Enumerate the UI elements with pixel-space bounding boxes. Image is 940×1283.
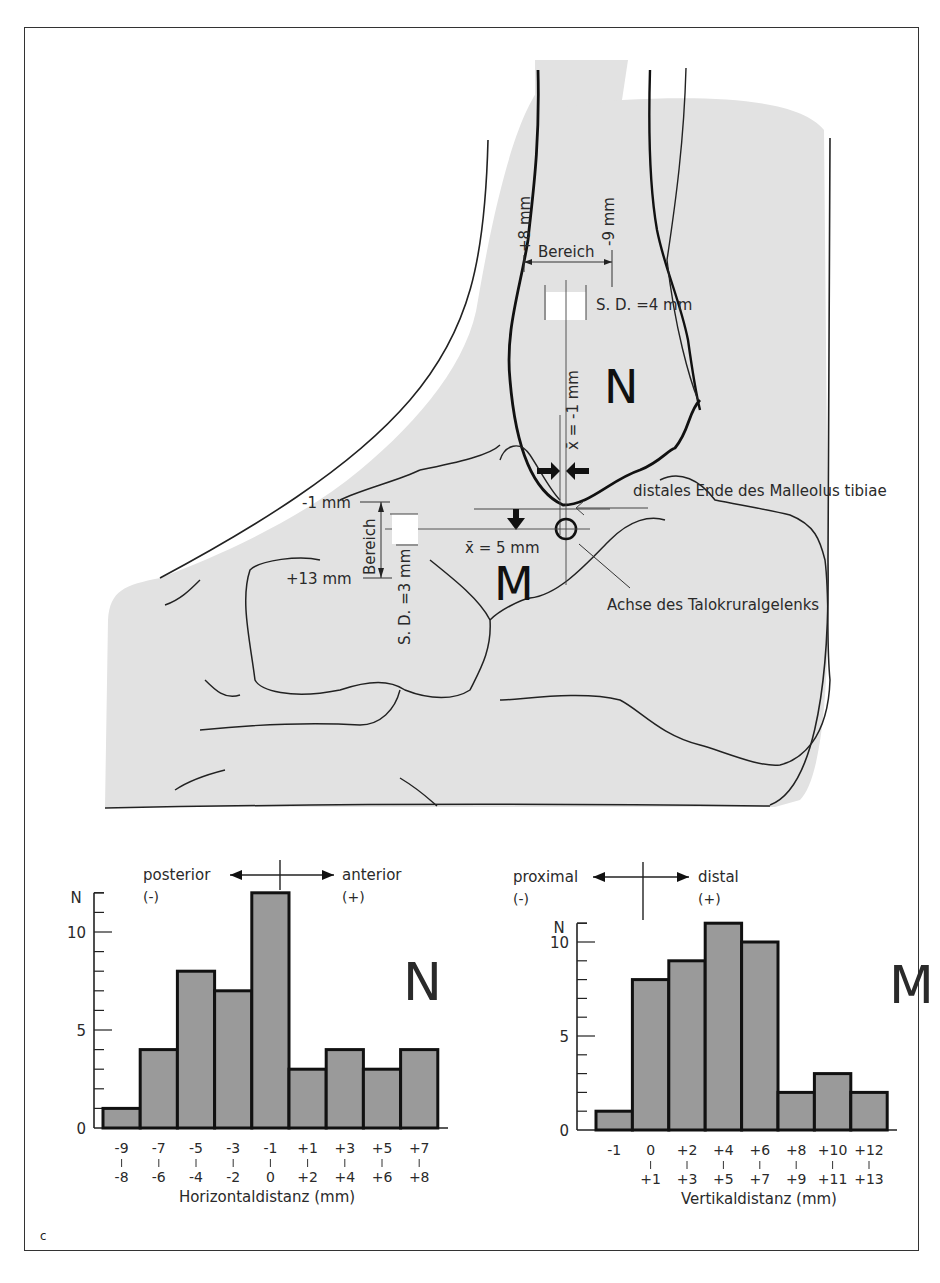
region-label-N: N bbox=[604, 360, 638, 414]
foot-silhouette bbox=[105, 65, 828, 807]
vertical-range-min-label: -1 mm bbox=[302, 494, 351, 512]
horizontal-range-min-label: +8 mm bbox=[516, 196, 534, 252]
malleolus-annotation: distales Ende des Malleolus tibiae bbox=[633, 482, 887, 500]
region-label-M: M bbox=[494, 557, 534, 611]
axis-annotation: Achse des Talokruralgelenks bbox=[607, 596, 819, 614]
horizontal-sd-label: S. D. =4 mm bbox=[596, 296, 692, 314]
vertical-range-max-label: +13 mm bbox=[286, 570, 352, 588]
panel-letter: c bbox=[40, 1228, 46, 1243]
vertical-mean-label: x̄ = 5 mm bbox=[465, 539, 540, 557]
horizontal-range-max-label: -9 mm bbox=[600, 197, 618, 246]
vertical-sd-label: S. D. =3 mm bbox=[396, 549, 414, 645]
horizontal-mean-label: x̄ = -1 mm bbox=[564, 370, 582, 450]
horizontal-range-label: Bereich bbox=[538, 243, 595, 261]
vertical-range-label: Bereich bbox=[361, 518, 379, 575]
ankle-anatomy-drawing: +8 mm -9 mm Bereich S. D. =4 mm x̄ = -1 … bbox=[0, 0, 940, 840]
